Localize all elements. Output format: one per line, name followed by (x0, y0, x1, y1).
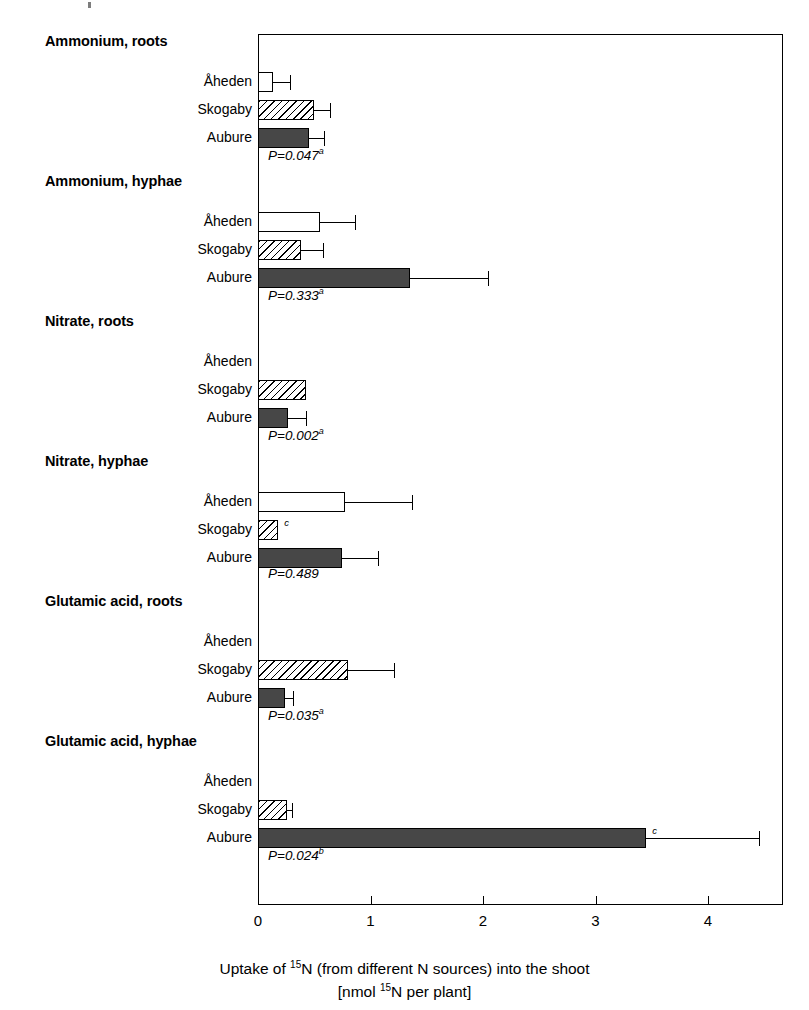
p-value-superscript: b (319, 846, 324, 856)
bar-open-4 (258, 492, 345, 512)
marker-solid-6: c (652, 825, 657, 836)
row-label-solid-6: Aubure (30, 829, 252, 845)
bar-hatched-1 (258, 100, 314, 120)
error-bar-solid-4 (342, 558, 378, 559)
row-label-hatched-6: Skogaby (30, 801, 252, 817)
p-value-4: P=0.489 (268, 566, 319, 581)
bar-hatched-4 (258, 520, 278, 540)
p-value-6: P=0.024b (268, 846, 324, 863)
bar-solid-4 (258, 548, 342, 568)
error-cap-hatched-1 (330, 103, 331, 118)
error-bar-solid-6 (646, 838, 759, 839)
x-tick-3 (596, 896, 597, 904)
error-cap-solid-6 (759, 831, 760, 846)
p-value-superscript: a (319, 146, 324, 156)
error-bar-open-1 (273, 82, 290, 83)
error-bar-hatched-2 (301, 250, 324, 251)
error-cap-solid-5 (293, 691, 294, 706)
error-bar-solid-3 (288, 418, 306, 419)
plot-frame (258, 34, 783, 905)
row-label-hatched-1: Skogaby (30, 101, 252, 117)
bar-solid-2 (258, 268, 410, 288)
error-bar-open-4 (345, 502, 413, 503)
superscript-15: 15 (380, 982, 391, 993)
x-axis-title-line1: Uptake of 15N (from different N sources)… (0, 958, 809, 981)
x-tick-4 (708, 896, 709, 904)
row-label-hatched-5: Skogaby (30, 661, 252, 677)
error-cap-solid-4 (378, 551, 379, 566)
p-value-2: P=0.333a (268, 286, 324, 303)
error-cap-hatched-6 (292, 803, 293, 818)
error-bar-solid-2 (410, 278, 488, 279)
x-tick-label-4: 4 (688, 912, 728, 929)
bar-hatched-3 (258, 380, 306, 400)
p-value-3: P=0.002a (268, 426, 324, 443)
x-tick-2 (483, 896, 484, 904)
group-header-1: Ammonium, roots (45, 33, 168, 49)
error-cap-open-2 (355, 215, 356, 230)
x-tick-label-2: 2 (463, 912, 503, 929)
row-label-solid-2: Aubure (30, 269, 252, 285)
bar-solid-5 (258, 688, 285, 708)
row-label-solid-1: Aubure (30, 129, 252, 145)
row-label-open-3: Åheden (30, 353, 252, 369)
x-tick-1 (371, 896, 372, 904)
p-value-superscript: a (319, 286, 324, 296)
row-label-hatched-3: Skogaby (30, 381, 252, 397)
bar-open-1 (258, 72, 273, 92)
x-tick-label-1: 1 (351, 912, 391, 929)
error-cap-solid-3 (306, 411, 307, 426)
p-value-1: P=0.047a (268, 146, 324, 163)
error-bar-open-2 (320, 222, 355, 223)
row-label-hatched-2: Skogaby (30, 241, 252, 257)
error-bar-hatched-5 (348, 670, 394, 671)
bar-solid-6 (258, 828, 646, 848)
bar-solid-1 (258, 128, 309, 148)
bar-hatched-5 (258, 660, 348, 680)
error-cap-hatched-5 (394, 663, 395, 678)
x-axis-title-line2: [nmol 15N per plant] (0, 981, 809, 1004)
scan-artifact (88, 2, 91, 8)
row-label-solid-3: Aubure (30, 409, 252, 425)
group-header-2: Ammonium, hyphae (45, 173, 182, 189)
row-label-open-2: Åheden (30, 213, 252, 229)
error-cap-hatched-2 (323, 243, 324, 258)
figure-container: Uptake of 15N (from different N sources)… (0, 0, 809, 1010)
error-bar-solid-1 (309, 138, 325, 139)
row-label-hatched-4: Skogaby (30, 521, 252, 537)
group-header-3: Nitrate, roots (45, 313, 134, 329)
group-header-5: Glutamic acid, roots (45, 593, 182, 609)
group-header-4: Nitrate, hyphae (45, 453, 148, 469)
row-label-solid-4: Aubure (30, 549, 252, 565)
bar-solid-3 (258, 408, 288, 428)
x-tick-label-3: 3 (576, 912, 616, 929)
row-label-open-6: Åheden (30, 773, 252, 789)
x-axis-title: Uptake of 15N (from different N sources)… (0, 958, 809, 1003)
bar-hatched-6 (258, 800, 287, 820)
error-cap-solid-1 (324, 131, 325, 146)
error-cap-solid-2 (488, 271, 489, 286)
p-value-superscript: a (319, 426, 324, 436)
bar-hatched-2 (258, 240, 301, 260)
p-value-5: P=0.035a (268, 706, 324, 723)
error-cap-open-4 (412, 495, 413, 510)
row-label-open-1: Åheden (30, 73, 252, 89)
superscript-15: 15 (290, 959, 301, 970)
error-bar-hatched-1 (314, 110, 330, 111)
p-value-superscript: a (319, 706, 324, 716)
error-bar-solid-5 (285, 698, 293, 699)
row-label-open-5: Åheden (30, 633, 252, 649)
group-header-6: Glutamic acid, hyphae (45, 733, 197, 749)
error-cap-open-1 (290, 75, 291, 90)
x-tick-label-0: 0 (238, 912, 278, 929)
row-label-open-4: Åheden (30, 493, 252, 509)
row-label-solid-5: Aubure (30, 689, 252, 705)
bar-open-2 (258, 212, 320, 232)
marker-hatched-4: c (284, 517, 289, 528)
